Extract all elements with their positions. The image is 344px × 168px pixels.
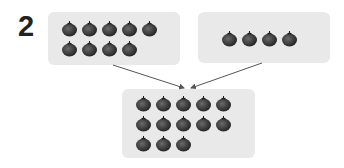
arrow-2 [191, 63, 262, 88]
arrows-layer [0, 0, 344, 168]
arrow-1 [113, 65, 184, 88]
